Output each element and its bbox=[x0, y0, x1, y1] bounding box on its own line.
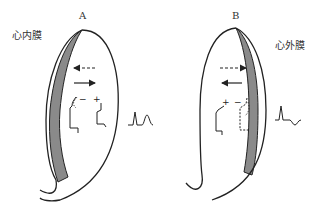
panel-a-ecg bbox=[128, 112, 153, 125]
panel-a-ap-outer bbox=[97, 103, 106, 127]
panel-b-outer-left bbox=[186, 28, 236, 189]
panel-b-ecg bbox=[275, 106, 301, 125]
panel-b-ap-left bbox=[216, 106, 224, 135]
svg-text:−: − bbox=[79, 94, 87, 104]
panel-a-shaded-layer bbox=[49, 30, 82, 182]
svg-text:−: − bbox=[234, 97, 242, 107]
svg-text:+: + bbox=[93, 94, 101, 104]
svg-text:+: + bbox=[222, 97, 230, 107]
diagram-canvas: − + + − bbox=[0, 0, 317, 216]
panel-b: + − bbox=[186, 28, 301, 200]
panel-a: − + bbox=[40, 30, 153, 201]
